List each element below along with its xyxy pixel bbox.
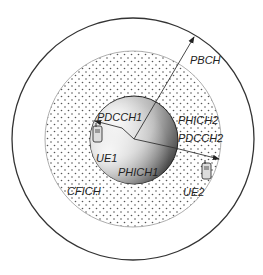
ue1-label: UE1 (96, 152, 117, 164)
ue2-label: UE2 (183, 186, 204, 198)
phich1-label: PHICH1 (118, 166, 158, 178)
ue1-mobile-phone-icon (93, 123, 102, 142)
cfich-label: CFICH (67, 185, 101, 197)
coverage-diagram: PBCH PDCCH1 PHICH2 PDCCH2 UE1 PHICH1 CFI… (0, 0, 263, 275)
ue2-mobile-phone-icon (202, 160, 211, 179)
phich2-label: PHICH2 (178, 114, 218, 126)
pbch-label: PBCH (190, 54, 221, 66)
pdcch1-label: PDCCH1 (97, 111, 142, 123)
pdcch2-label: PDCCH2 (178, 132, 223, 144)
